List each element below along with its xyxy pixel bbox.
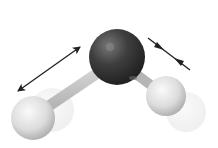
water-molecule-diagram: [0, 0, 218, 148]
molecule-canvas: [0, 0, 218, 148]
stretch-arrow-left: [18, 47, 80, 91]
compress-arrow-right: [148, 38, 190, 70]
hydrogen-atom-left: [11, 96, 55, 140]
oxygen-atom: [89, 29, 145, 85]
hydrogen-atom-right: [146, 76, 186, 116]
